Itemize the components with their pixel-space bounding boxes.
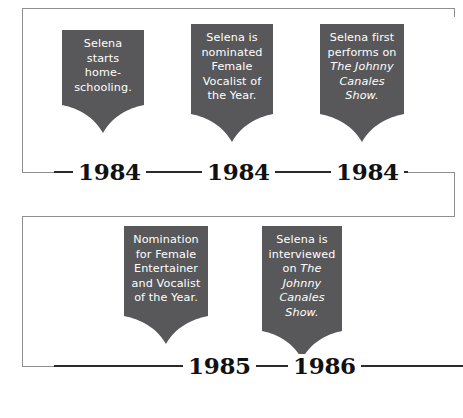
row2-left-bracket: [22, 216, 23, 367]
event-card-text: Selena isinterviewedon TheJohnnyCanalesS…: [262, 226, 342, 325]
card-tail-icon: [320, 108, 404, 142]
year-label: 1984: [331, 160, 404, 183]
event-card-text: Selena isnominatedFemaleVocalist ofthe Y…: [191, 24, 273, 108]
year-label: 1985: [183, 354, 256, 377]
row1-left-bracket: [22, 8, 23, 173]
row1-right-connector-h: [404, 172, 454, 173]
year-label: 1984: [202, 160, 275, 183]
event-card-text: Selena firstperforms onThe JohnnyCanales…: [320, 24, 404, 108]
event-card: Selena firstperforms onThe JohnnyCanales…: [320, 24, 404, 142]
event-card: Selena isinterviewedon TheJohnnyCanalesS…: [262, 226, 342, 359]
card-tail-icon: [124, 310, 208, 344]
row2-segment-c: [350, 365, 463, 367]
row1-left-bracket-foot: [22, 172, 56, 173]
event-card: Selenastarts home-schooling.: [62, 30, 144, 133]
year-label: 1984: [73, 160, 146, 183]
row2-top-border: [22, 216, 455, 217]
row1-top-border: [22, 8, 455, 9]
event-card-text: Nominationfor FemaleEntertainerand Vocal…: [124, 226, 208, 310]
row2-segment-a: [54, 365, 186, 367]
row1-top-right-stub: [454, 8, 455, 17]
event-card-text: Selenastarts home-schooling.: [62, 30, 144, 99]
year-label: 1986: [288, 354, 361, 377]
timeline-infographic: Selenastarts home-schooling. Selena isno…: [0, 0, 463, 418]
row2-left-bracket-foot: [22, 366, 56, 367]
card-tail-icon: [62, 99, 144, 133]
card-tail-icon: [191, 108, 273, 142]
event-card: Selena isnominatedFemaleVocalist ofthe Y…: [191, 24, 273, 142]
event-card: Nominationfor FemaleEntertainerand Vocal…: [124, 226, 208, 344]
row1-right-connector-v: [454, 172, 455, 217]
